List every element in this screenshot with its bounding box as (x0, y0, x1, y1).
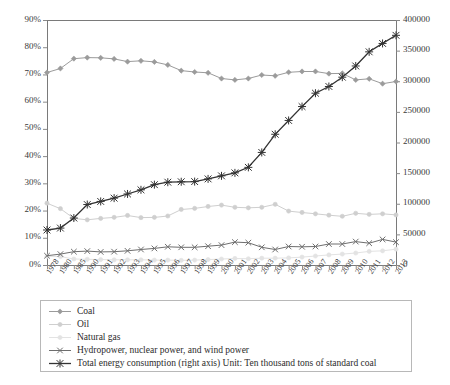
data-point-marker (246, 206, 250, 210)
data-point-marker (327, 213, 331, 217)
data-point-marker (393, 79, 398, 84)
legend-marker-icon (49, 332, 71, 343)
data-point-marker (112, 56, 117, 61)
data-point-marker (313, 212, 317, 216)
legend-label: Total energy consumption (right axis) Un… (77, 358, 376, 369)
data-point-marker (125, 59, 130, 64)
series-hydropower-nuclear-power-and-wind-power (44, 237, 399, 259)
data-point-marker (380, 249, 384, 253)
data-point-marker (58, 322, 62, 326)
data-point-marker (285, 116, 293, 124)
data-point-marker (164, 178, 172, 186)
legend-marker-icon (49, 358, 71, 369)
data-point-marker (137, 186, 145, 194)
right-axis-label: 100000 (403, 198, 430, 207)
plot-area (0, 0, 450, 300)
data-point-marker (354, 211, 358, 215)
data-point-marker (260, 205, 264, 209)
data-point-marker (286, 70, 291, 75)
data-point-marker (218, 172, 226, 180)
data-point-marker (354, 251, 358, 255)
left-axis-label: 10% (25, 232, 42, 241)
legend-item-5[interactable]: Total energy consumption (right axis) Un… (49, 357, 405, 370)
legend-item-3[interactable]: Natural gas (49, 331, 405, 344)
data-point-marker (367, 76, 372, 81)
data-point-marker (367, 249, 371, 253)
data-point-marker (352, 62, 360, 70)
left-axis-label: 20% (25, 205, 42, 214)
data-point-marker (353, 77, 358, 82)
data-point-marker (325, 82, 333, 90)
data-point-marker (219, 76, 224, 81)
data-point-marker (165, 62, 170, 67)
legend-label: Coal (77, 306, 95, 317)
data-point-marker (287, 209, 291, 213)
data-point-marker (394, 247, 398, 251)
data-point-marker (57, 309, 62, 314)
data-point-marker (83, 201, 91, 209)
data-point-marker (287, 256, 291, 260)
right-axis-label: 250000 (403, 106, 430, 115)
data-point-marker (56, 224, 64, 232)
data-point-marker (192, 69, 197, 74)
legend-item-2[interactable]: Oil (49, 318, 405, 331)
data-point-marker (58, 207, 62, 211)
data-point-marker (273, 256, 277, 260)
legend-label: Natural gas (77, 332, 121, 343)
data-point-marker (205, 70, 210, 75)
data-point-marker (219, 203, 223, 207)
data-point-marker (259, 72, 264, 77)
left-axis-label: 40% (25, 151, 42, 160)
data-point-marker (313, 254, 317, 258)
data-point-marker (380, 81, 385, 86)
data-point-marker (193, 206, 197, 210)
legend-marker-icon (49, 345, 71, 356)
data-point-marker (177, 178, 185, 186)
data-point-marker (179, 68, 184, 73)
data-point-marker (85, 218, 89, 222)
data-point-marker (204, 175, 212, 183)
data-point-marker (311, 89, 319, 97)
data-point-marker (313, 69, 318, 74)
data-point-marker (98, 55, 103, 60)
legend-label: Oil (77, 319, 89, 330)
data-point-marker (300, 210, 304, 214)
legend-marker-icon (49, 306, 71, 317)
legend-item-1[interactable]: Coal (49, 305, 405, 318)
data-point-marker (112, 215, 116, 219)
right-axis-label: 300000 (403, 76, 430, 85)
data-point-marker (326, 71, 331, 76)
data-point-marker (152, 215, 156, 219)
data-point-marker (327, 253, 331, 257)
data-point-marker (340, 252, 344, 256)
data-point-marker (45, 201, 49, 205)
data-point-marker (56, 360, 64, 368)
data-point-marker (365, 48, 373, 56)
data-point-marker (379, 39, 387, 47)
right-axis-label: 150000 (403, 168, 430, 177)
data-point-marker (233, 205, 237, 209)
right-axis-label: 400000 (403, 15, 430, 24)
data-point-marker (166, 214, 170, 218)
data-point-marker (150, 181, 158, 189)
data-point-marker (273, 202, 277, 206)
data-point-marker (179, 207, 183, 211)
left-axis-label: 30% (25, 178, 42, 187)
data-point-marker (271, 130, 279, 138)
left-axis-label: 60% (25, 96, 42, 105)
data-point-marker (44, 70, 49, 75)
data-point-marker (300, 255, 304, 259)
data-point-marker (125, 213, 129, 217)
data-point-marker (152, 59, 157, 64)
legend-item-4[interactable]: Hydropower, nuclear power, and wind powe… (49, 344, 405, 357)
data-point-marker (299, 69, 304, 74)
legend-marker-icon (49, 319, 71, 330)
left-axis-label: 50% (25, 123, 42, 132)
data-point-marker (231, 169, 239, 177)
right-axis-label: 50000 (403, 229, 426, 238)
data-point-marker (367, 212, 371, 216)
chart-legend: CoalOilNatural gasHydropower, nuclear po… (40, 300, 412, 372)
data-point-marker (246, 76, 251, 81)
data-point-marker (43, 226, 51, 234)
left-axis-label: 90% (25, 15, 42, 24)
